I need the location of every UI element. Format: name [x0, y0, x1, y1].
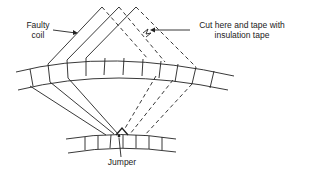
inner-ring-top: [66, 135, 176, 140]
jumper-wire: [116, 128, 128, 135]
outer-ring-slots: [30, 58, 214, 88]
cut-arrow-icon: [150, 28, 155, 33]
cut-mark-icon: [143, 29, 151, 37]
inner-ring-bottom: [68, 148, 176, 153]
cut-note-line2: insulation tape: [190, 30, 294, 40]
inner-ring-slots: [85, 135, 162, 150]
cut-note-label: Cut here and tape with insulation tape: [190, 20, 294, 40]
coil-dashed-legs: [102, 7, 196, 136]
faulty-coil-leader: [53, 30, 76, 33]
jumper-dot-icon: [118, 135, 121, 138]
faulty-coil-label: Faulty coil: [20, 20, 56, 40]
cut-note-line1: Cut here and tape with: [190, 20, 294, 30]
faulty-coil-label-line2: coil: [20, 30, 56, 40]
jumper-label: Jumper: [100, 157, 144, 167]
faulty-coil-label-line1: Faulty: [20, 20, 56, 30]
jumper-leader: [119, 138, 121, 157]
